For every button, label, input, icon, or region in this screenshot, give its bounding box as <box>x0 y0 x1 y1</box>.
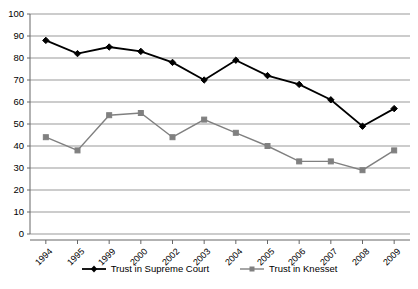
data-point-marker <box>43 135 48 140</box>
data-point-marker <box>296 81 302 87</box>
chart-legend: Trust in Supreme CourtTrust in Knesset <box>0 264 418 274</box>
y-tick-label: 40 <box>2 141 24 151</box>
data-point-marker <box>392 148 397 153</box>
data-point-marker <box>328 159 333 164</box>
data-point-marker <box>264 72 270 78</box>
y-tick-label: 10 <box>2 207 24 217</box>
data-point-marker <box>75 148 80 153</box>
series-line-1 <box>46 113 394 170</box>
data-point-marker <box>297 159 302 164</box>
legend-label: Trust in Knesset <box>269 264 337 274</box>
y-tick-label: 100 <box>2 9 24 19</box>
y-tick-label: 0 <box>2 229 24 239</box>
data-point-marker <box>265 144 270 149</box>
line-chart: 0102030405060708090100 19941995199920002… <box>0 0 418 289</box>
data-point-marker <box>43 37 49 43</box>
y-tick-label: 30 <box>2 163 24 173</box>
y-tick-label: 60 <box>2 97 24 107</box>
gridlines <box>30 14 410 234</box>
data-point-marker <box>202 117 207 122</box>
axis-lines <box>27 14 410 240</box>
series-line-0 <box>46 40 394 126</box>
legend-entry-1[interactable]: Trust in Knesset <box>239 264 337 274</box>
data-point-marker <box>170 135 175 140</box>
legend-label: Trust in Supreme Court <box>111 264 209 274</box>
data-point-marker <box>138 48 144 54</box>
data-point-marker <box>138 111 143 116</box>
legend-square-marker-icon <box>239 264 265 274</box>
x-axis-ticks <box>46 240 394 244</box>
y-tick-label: 90 <box>2 31 24 41</box>
data-point-marker <box>233 130 238 135</box>
data-point-marker <box>360 168 365 173</box>
y-tick-label: 50 <box>2 119 24 129</box>
y-tick-label: 80 <box>2 53 24 63</box>
y-tick-label: 20 <box>2 185 24 195</box>
y-tick-label: 70 <box>2 75 24 85</box>
data-point-marker <box>107 113 112 118</box>
data-point-marker <box>106 44 112 50</box>
legend-entry-0[interactable]: Trust in Supreme Court <box>81 264 209 274</box>
legend-diamond-marker-icon <box>81 264 107 274</box>
plot-area <box>0 0 418 289</box>
data-point-marker <box>74 50 80 56</box>
